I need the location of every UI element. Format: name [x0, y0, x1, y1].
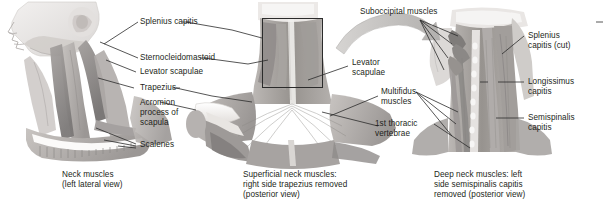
label-sternocleidomastoid: Sternocleidomastoid [140, 53, 215, 63]
label-longissimus-capitis-line2: capitis [528, 87, 552, 97]
label-first-thoracic-line2: vertebrae [375, 129, 410, 139]
label-semispinalis-capitis-line1: Semispinalis [528, 113, 575, 123]
caption-right-line1: Deep neck muscles: left [434, 170, 522, 180]
caption-left-line2: (left lateral view) [62, 180, 123, 190]
anatomy-figure: Splenius capitis Sternocleidomastoid Lev… [0, 0, 603, 209]
label-acromion-line1: Acromion [140, 98, 175, 108]
caption-left-line1: Neck muscles [62, 170, 114, 180]
magnify-arrow-icon [336, 13, 440, 54]
caption-middle-line1: Superficial neck muscles: [243, 170, 337, 180]
label-trapezius: Trapezius [140, 83, 176, 93]
label-acromion-line3: scapula [140, 118, 169, 128]
label-first-thoracic-line1: 1st thoracic [375, 119, 417, 129]
label-semispinalis-capitis-line2: capitis [528, 123, 552, 133]
label-splenius-capitis-cut-line1: Splenius [528, 31, 560, 41]
label-levator-scapulae-posterior-line1: Levator [352, 58, 380, 68]
label-longissimus-capitis-line1: Longissimus [528, 77, 574, 87]
label-acromion-line2: process of [140, 108, 178, 118]
caption-right-line2: side semispinalis capitis [434, 180, 523, 190]
label-splenius-capitis: Splenius capitis [140, 17, 198, 27]
label-levator-scapulae-lateral: Levator scapulae [140, 67, 203, 77]
caption-right-line3: removed (posterior view) [434, 190, 525, 200]
label-splenius-capitis-cut-line2: capitis (cut) [528, 41, 571, 51]
label-multifidus-line1: Multifidus [381, 87, 416, 97]
label-levator-scapulae-posterior-line2: scapulae [352, 68, 385, 78]
caption-middle-line2: right side trapezius removed [243, 180, 347, 190]
detail-zoom-box [262, 18, 323, 88]
caption-middle-line3: (posterior view) [243, 190, 300, 200]
label-multifidus-line2: muscles [381, 97, 411, 107]
label-suboccipital-muscles: Suboccipital muscles [360, 7, 437, 17]
label-scalenes: Scalenes [140, 140, 174, 150]
